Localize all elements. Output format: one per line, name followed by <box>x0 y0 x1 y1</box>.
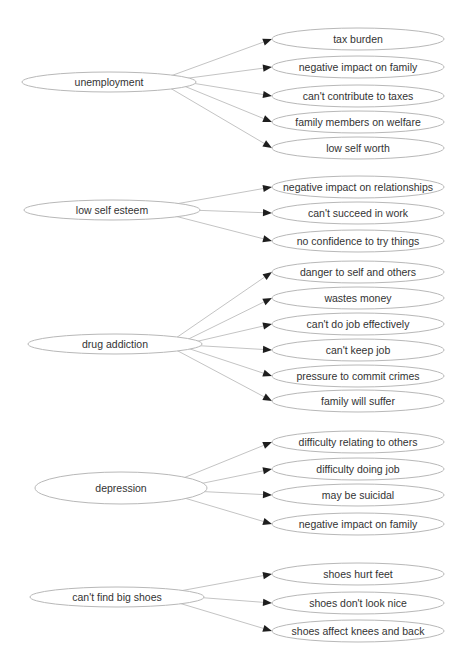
node-label: negative impact on family <box>299 518 418 530</box>
node-label: shoes hurt feet <box>323 568 393 580</box>
source-node[interactable]: unemployment <box>22 72 196 92</box>
edge-arrow <box>181 497 272 525</box>
arrowhead-icon <box>262 140 272 148</box>
node-label: can't do job effectively <box>307 318 411 330</box>
edge-arrow <box>181 442 272 479</box>
node-label: unemployment <box>75 76 144 88</box>
arrowhead-icon <box>262 467 272 474</box>
node-label: can't keep job <box>326 344 391 356</box>
arrowhead-icon <box>263 272 272 280</box>
source-node[interactable]: low self esteem <box>24 200 200 220</box>
effect-node[interactable]: difficulty relating to others <box>272 431 444 453</box>
effect-node[interactable]: can't do job effectively <box>272 313 444 335</box>
node-label: can't contribute to taxes <box>303 90 414 102</box>
edge-line <box>169 42 263 76</box>
effect-node[interactable]: negative impact on family <box>272 513 444 535</box>
effect-node[interactable]: can't contribute to taxes <box>272 85 444 107</box>
node-label: family will suffer <box>321 395 395 407</box>
edge-line <box>186 82 264 95</box>
node-label: family members on welfare <box>295 116 421 128</box>
arrowhead-icon <box>263 185 272 192</box>
edge-arrow <box>169 88 272 148</box>
node-label: shoes affect knees and back <box>292 625 426 637</box>
arrowhead-icon <box>262 394 272 401</box>
node-label: difficulty relating to others <box>299 436 418 448</box>
edge-line <box>181 497 264 522</box>
arrowhead-icon <box>262 235 272 242</box>
arrowhead-icon <box>263 65 272 72</box>
arrowhead-icon <box>262 298 272 305</box>
effect-node[interactable]: can't succeed in work <box>272 202 444 224</box>
edge-arrow <box>177 572 272 591</box>
node-label: tax burden <box>333 33 383 45</box>
node-label: pressure to commit crimes <box>296 370 419 382</box>
edge-line <box>181 68 263 79</box>
node-label: negative impact on family <box>299 61 418 73</box>
effect-node[interactable]: wastes money <box>272 287 444 309</box>
edge-arrow <box>175 350 272 401</box>
effect-node[interactable]: pressure to commit crimes <box>272 365 444 387</box>
node-label: drug addiction <box>82 338 148 350</box>
source-node[interactable]: depression <box>35 472 207 504</box>
edge-line <box>173 189 263 205</box>
arrowhead-icon <box>262 442 272 449</box>
edge-line <box>181 445 264 479</box>
node-label: can't find big shoes <box>72 591 162 603</box>
effect-node[interactable]: tax burden <box>272 28 444 50</box>
node-label: may be suicidal <box>322 489 394 501</box>
effect-node[interactable]: negative impact on relationships <box>272 176 444 198</box>
effect-node[interactable]: difficulty doing job <box>272 458 444 480</box>
edge-line <box>177 603 263 629</box>
node-label: depression <box>95 482 147 494</box>
effect-node[interactable]: family will suffer <box>272 390 444 412</box>
edge-line <box>175 350 264 397</box>
effect-node[interactable]: shoes hurt feet <box>272 563 444 585</box>
edges-layer <box>169 39 272 632</box>
edge-arrow <box>195 491 272 498</box>
effect-node[interactable]: low self worth <box>272 137 444 159</box>
node-label: low self esteem <box>76 204 149 216</box>
edge-line <box>173 216 263 239</box>
diagram-canvas: unemploymenttax burdennegative impact on… <box>0 0 471 668</box>
node-label: low self worth <box>326 142 390 154</box>
arrowhead-icon <box>262 625 272 632</box>
edge-line <box>191 326 263 343</box>
source-node[interactable]: can't find big shoes <box>30 587 204 607</box>
effect-node[interactable]: danger to self and others <box>272 261 444 283</box>
edge-arrow <box>181 85 272 122</box>
arrowhead-icon <box>263 599 272 606</box>
edge-arrow <box>177 603 272 632</box>
effect-node[interactable]: negative impact on family <box>272 56 444 78</box>
effect-node[interactable]: no confidence to try things <box>272 230 444 252</box>
edge-line <box>195 471 263 485</box>
nodes-layer: unemploymenttax burdennegative impact on… <box>22 28 444 642</box>
effect-node[interactable]: shoes don't look nice <box>272 592 444 614</box>
node-label: no confidence to try things <box>297 235 420 247</box>
edge-arrow <box>194 597 272 606</box>
node-label: shoes don't look nice <box>309 597 407 609</box>
edge-line <box>177 576 263 592</box>
arrowhead-icon <box>262 39 272 46</box>
arrowhead-icon <box>263 91 272 98</box>
arrowhead-icon <box>262 572 272 579</box>
edge-line <box>191 345 263 349</box>
cause-effect-graph: unemploymenttax burdennegative impact on… <box>0 0 471 668</box>
edge-line <box>186 347 264 373</box>
arrowhead-icon <box>263 346 272 353</box>
edge-arrow <box>191 345 272 353</box>
arrowhead-icon <box>262 518 272 525</box>
edge-arrow <box>189 209 272 216</box>
source-node[interactable]: drug addiction <box>28 334 202 354</box>
effect-node[interactable]: family members on welfare <box>272 111 444 133</box>
node-label: can't succeed in work <box>308 207 409 219</box>
effect-node[interactable]: may be suicidal <box>272 484 444 506</box>
edge-line <box>169 88 264 144</box>
edge-arrow <box>191 323 272 343</box>
edge-arrow <box>169 39 272 77</box>
node-label: wastes money <box>323 292 392 304</box>
effect-node[interactable]: shoes affect knees and back <box>272 620 444 642</box>
arrowhead-icon <box>262 370 272 377</box>
effect-node[interactable]: can't keep job <box>272 339 444 361</box>
edge-arrow <box>173 216 272 243</box>
edge-arrow <box>195 467 272 485</box>
